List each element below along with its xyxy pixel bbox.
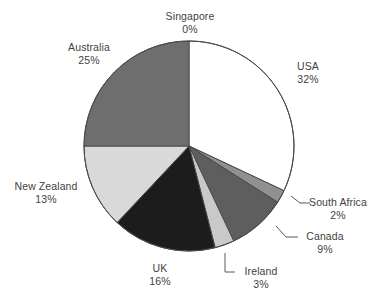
pie-label-ireland: Ireland 3%	[234, 265, 288, 290]
pie-label-uk-value: 16%	[131, 275, 189, 288]
pie-chart: Singapore 0% USA 32% South Africa 2% Can…	[0, 0, 372, 306]
pie-label-usa-name: USA	[278, 60, 338, 73]
pie-label-south-africa: South Africa 2%	[305, 196, 371, 221]
pie-label-south-africa-name: South Africa	[305, 196, 371, 209]
pie-label-usa: USA 32%	[278, 60, 338, 85]
pie-label-australia: Australia 25%	[53, 41, 125, 66]
pie-label-uk-name: UK	[131, 262, 189, 275]
pie-label-uk: UK 16%	[131, 262, 189, 287]
pie-label-canada-name: Canada	[296, 230, 354, 243]
pie-label-singapore: Singapore 0%	[145, 10, 235, 35]
pie-label-canada-value: 9%	[296, 243, 354, 256]
pie-label-new-zealand-value: 13%	[4, 193, 88, 206]
pie-slices-group	[84, 41, 294, 251]
pie-label-australia-value: 25%	[53, 54, 125, 67]
pie-label-canada: Canada 9%	[296, 230, 354, 255]
pie-label-usa-value: 32%	[278, 73, 338, 86]
pie-label-singapore-value: 0%	[145, 23, 235, 36]
pie-label-new-zealand-name: New Zealand	[4, 180, 88, 193]
pie-label-ireland-value: 3%	[234, 278, 288, 291]
pie-label-singapore-name: Singapore	[145, 10, 235, 23]
pie-label-south-africa-value: 2%	[305, 209, 371, 222]
pie-label-ireland-name: Ireland	[234, 265, 288, 278]
pie-label-new-zealand: New Zealand 13%	[4, 180, 88, 205]
leader-line-canada	[276, 226, 298, 237]
pie-label-australia-name: Australia	[53, 41, 125, 54]
